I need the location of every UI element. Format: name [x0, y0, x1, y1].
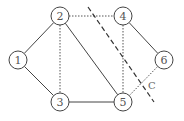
node-5: 5: [114, 93, 132, 111]
cut-label: C: [148, 80, 156, 91]
edges-group: [24, 16, 158, 102]
node-label: 1: [15, 54, 22, 67]
edge-1-3: [24, 66, 53, 95]
edge-4-6: [129, 23, 158, 54]
node-4: 4: [114, 7, 132, 25]
edge-2-5: [65, 23, 117, 94]
node-1: 1: [9, 51, 27, 69]
edge-1-2: [24, 23, 54, 54]
node-label: 6: [161, 54, 168, 67]
node-2: 2: [51, 7, 69, 25]
node-label: 5: [120, 96, 127, 109]
node-label: 4: [120, 10, 127, 23]
node-6: 6: [155, 51, 173, 69]
graph-diagram: C 123456: [0, 0, 184, 121]
node-label: 2: [57, 10, 64, 23]
node-label: 3: [57, 96, 64, 109]
node-3: 3: [51, 93, 69, 111]
